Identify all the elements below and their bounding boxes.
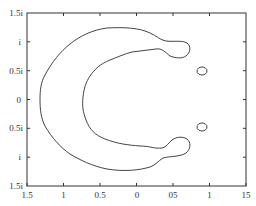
c-shaped-contour (40, 28, 190, 171)
x-tick-label: 0.5 (94, 190, 106, 200)
y-tick-label: 0.5i (9, 123, 23, 133)
y-tick-label: 1.5i (9, 181, 23, 191)
small-contour-lower (197, 123, 207, 131)
small-contour-upper (197, 67, 207, 75)
y-tick-label: 0.5i (9, 66, 23, 76)
y-tick-label: i (18, 37, 21, 47)
y-tick-label: 0 (17, 95, 22, 105)
y-tick-labels: 1.5i i 0.5i 0 0.5i i 1.5i (9, 8, 23, 191)
x-tick-label: 0 (135, 190, 140, 200)
x-tick-label: 1.5 (21, 190, 33, 200)
contour-chart: 1.5 1 0.5 0 05 1 15 1.5i i 0.5i 0 0.5i i… (0, 0, 256, 206)
y-tick-label: i (18, 152, 21, 162)
x-axis-ticks (27, 13, 246, 186)
plot-frame (27, 13, 246, 186)
y-tick-label: 1.5i (9, 8, 23, 18)
x-tick-label: 05 (169, 190, 179, 200)
x-tick-label: 1 (207, 190, 212, 200)
x-tick-label: 15 (242, 190, 252, 200)
x-tick-label: 1 (61, 190, 66, 200)
x-tick-labels: 1.5 1 0.5 0 05 1 15 (21, 190, 251, 200)
y-axis-ticks (27, 42, 246, 157)
